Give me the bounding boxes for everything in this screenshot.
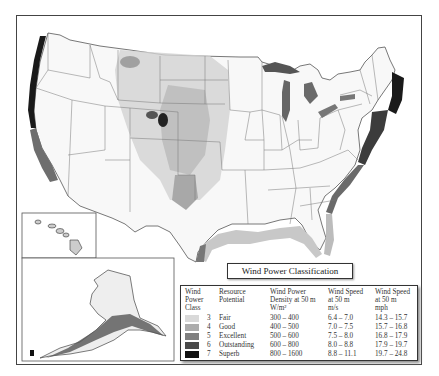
legend-header-speed-ms: Wind Speed at 50 m m/s [328, 288, 363, 312]
legend-table: Wind Power Class Resource Potential Wind… [180, 285, 418, 361]
montana-class5-area [120, 56, 140, 68]
legend-header-density: Wind Power Density at 50 m W/m² [270, 288, 316, 312]
swatch-class-3 [185, 315, 199, 322]
wyoming-class6-area [146, 111, 158, 119]
swatch-class-6 [185, 342, 199, 349]
swatch-class-4 [185, 324, 199, 331]
legend-header-speed-mph: Wind Speed at 50 m mph [375, 288, 410, 312]
map-title: Wind Power Classification [227, 263, 353, 279]
atlantic-offshore-class6 [358, 110, 388, 165]
aleutian-dark-spot [30, 350, 34, 356]
legend-header-class: Wind Power Class [185, 288, 203, 312]
legend-row-class-6: 6 Outstanding 600 – 800 8.0 – 8.8 17.9 –… [181, 341, 417, 350]
wyoming-class7-area [158, 113, 168, 127]
hawaii-inset [22, 213, 96, 258]
legend-row-class-3: 3 Fair 300 – 400 6.4 – 7.0 14.3 – 15.7 [181, 314, 417, 323]
legend-header-potential: Resource Potential [219, 288, 246, 304]
swatch-class-7 [185, 351, 199, 358]
legend-row-class-7: 7 Superb 800 – 1600 8.8 – 11.1 19.7 – 24… [181, 350, 417, 359]
florida-offshore-class3 [324, 214, 334, 256]
swatch-class-5 [185, 333, 199, 340]
legend-row-class-5: 5 Excellent 500 – 600 7.5 – 8.0 16.8 – 1… [181, 332, 417, 341]
legend-row-class-4: 4 Good 400 – 500 7.0 – 7.5 15.7 – 16.8 [181, 323, 417, 332]
